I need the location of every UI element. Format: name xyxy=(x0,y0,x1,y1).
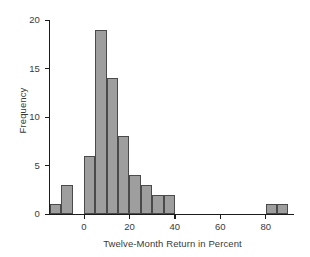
histogram-bar xyxy=(95,30,106,214)
y-axis-tick-label: 5 xyxy=(18,160,40,171)
histogram-bar xyxy=(107,78,118,214)
x-axis-tick-label: 20 xyxy=(117,221,141,232)
histogram-bar xyxy=(84,156,95,214)
y-axis-tick-label: 15 xyxy=(18,63,40,74)
x-axis-tick xyxy=(174,215,175,219)
x-axis-tick xyxy=(265,215,266,219)
y-axis-tick-label: 0 xyxy=(18,208,40,219)
y-axis-spine xyxy=(49,20,50,214)
histogram-bar xyxy=(277,204,288,214)
y-axis-tick xyxy=(45,165,49,166)
histogram-bar xyxy=(118,136,129,214)
x-axis-spine xyxy=(49,214,294,215)
x-axis-tick xyxy=(220,215,221,219)
histogram-bar xyxy=(164,195,175,214)
histogram-bar xyxy=(266,204,277,214)
plot-area: 05101520020406080 xyxy=(0,0,310,257)
x-axis-tick-label: 0 xyxy=(72,221,96,232)
x-axis-tick-label: 60 xyxy=(208,221,232,232)
y-axis-tick xyxy=(45,20,49,21)
histogram-bar xyxy=(50,204,61,214)
y-axis-tick xyxy=(45,214,49,215)
histogram-bar xyxy=(129,175,140,214)
y-axis-tick xyxy=(45,68,49,69)
x-axis-tick xyxy=(129,215,130,219)
y-axis-tick xyxy=(45,117,49,118)
x-axis-tick-label: 40 xyxy=(163,221,187,232)
histogram-bar xyxy=(141,185,152,214)
histogram-figure: Frequency Twelve-Month Return in Percent… xyxy=(0,0,310,257)
x-axis-tick-label: 80 xyxy=(254,221,278,232)
x-axis-tick xyxy=(84,215,85,219)
y-axis-tick-label: 10 xyxy=(18,111,40,122)
histogram-bar xyxy=(61,185,72,214)
y-axis-tick-label: 20 xyxy=(18,14,40,25)
histogram-bar xyxy=(152,195,163,214)
